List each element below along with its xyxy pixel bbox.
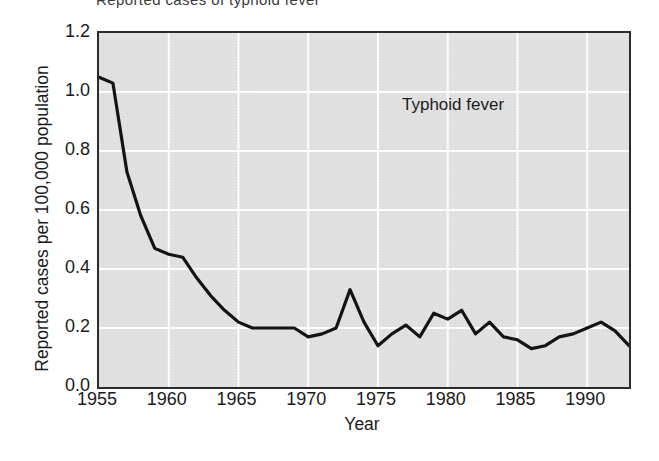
series-annotation-label: Typhoid fever <box>402 95 504 115</box>
y-axis-title: Reported cases per 100,000 population <box>32 34 53 404</box>
x-axis-tick-label: 1985 <box>495 389 535 410</box>
data-line <box>99 33 629 387</box>
typhoid-fever-line-chart: 0.00.20.40.60.81.01.2 Typhoid fever Repo… <box>0 0 659 461</box>
x-axis-tick-label: 1960 <box>147 389 187 410</box>
x-axis-tick-label: 1965 <box>216 389 256 410</box>
x-axis-tick-label: 1970 <box>286 389 326 410</box>
x-axis-tick-label: 1955 <box>77 389 117 410</box>
plot-area <box>97 31 631 389</box>
x-axis-tick-label: 1975 <box>356 389 396 410</box>
x-axis-title: Year <box>97 414 627 435</box>
x-axis-tick-label: 1990 <box>565 389 605 410</box>
x-axis-tick-label: 1980 <box>426 389 466 410</box>
plot-inner <box>99 33 629 387</box>
